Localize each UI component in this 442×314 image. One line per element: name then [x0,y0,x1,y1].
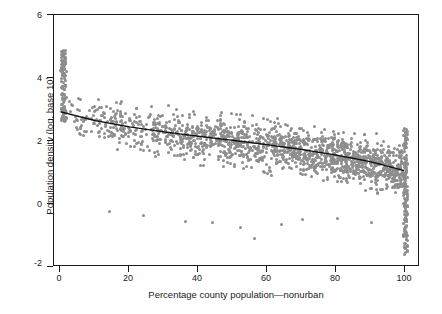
plot-area [53,14,419,266]
x-tick-label-80: 80 [320,274,350,283]
x-tick-label-60: 60 [251,274,281,283]
y-tick-mark [47,266,53,267]
fitted-curve [54,15,418,265]
y-tick-label-6: 6 [12,11,42,20]
x-tick-mark [59,266,60,272]
y-tick-label-minus2: -2 [12,259,42,268]
x-tick-label-20: 20 [113,274,143,283]
x-tick-label-40: 40 [182,274,212,283]
x-tick-mark [404,266,405,272]
y-tick-label-4: 4 [12,74,42,83]
x-tick-mark [335,266,336,272]
figure: Population density (log, base 10) 6 4 2 … [0,0,442,314]
x-tick-mark [128,266,129,272]
x-axis-label: Percentage county population—nonurban [53,289,419,300]
x-tick-label-0: 0 [44,274,74,283]
x-tick-label-100: 100 [389,274,419,283]
x-tick-mark [197,266,198,272]
x-tick-mark [266,266,267,272]
y-tick-label-2: 2 [12,137,42,146]
y-tick-label-0: 0 [12,200,42,209]
